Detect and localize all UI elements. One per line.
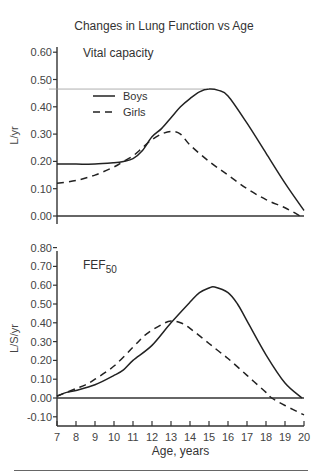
y-tick-label: 0.60 bbox=[31, 46, 52, 58]
x-tick-label: 14 bbox=[184, 431, 196, 443]
y-axis-label: L/S/yr bbox=[8, 324, 20, 353]
x-tick-label: 8 bbox=[73, 431, 79, 443]
y-tick-label: 0.30 bbox=[31, 336, 52, 348]
vital-capacity-panel: 0.000.100.200.300.400.500.60L/yrVital ca… bbox=[8, 46, 304, 224]
y-tick-label: 0.20 bbox=[31, 354, 52, 366]
y-tick-label: 0.00 bbox=[31, 392, 52, 404]
y-axis-label: L/yr bbox=[8, 126, 20, 145]
y-tick-label: 0.10 bbox=[31, 183, 52, 195]
x-tick-label: 12 bbox=[146, 431, 158, 443]
y-tick-label: 0.50 bbox=[31, 298, 52, 310]
series-girls bbox=[57, 321, 304, 415]
x-tick-label: 7 bbox=[54, 431, 60, 443]
x-tick-label: 16 bbox=[222, 431, 234, 443]
y-tick-label: 0.60 bbox=[31, 279, 52, 291]
series-boys bbox=[57, 287, 302, 398]
panel-label: Vital capacity bbox=[83, 46, 153, 60]
x-tick-label: 15 bbox=[203, 431, 215, 443]
series-boys bbox=[57, 89, 304, 210]
y-tick-label: 0.40 bbox=[31, 101, 52, 113]
y-tick-label: 0.80 bbox=[31, 242, 52, 254]
legend-label-boys: Boys bbox=[123, 90, 148, 102]
y-tick-label: -0.10 bbox=[27, 411, 52, 423]
x-tick-label: 13 bbox=[165, 431, 177, 443]
lung-function-chart: 0.000.100.200.300.400.500.60L/yrVital ca… bbox=[0, 0, 328, 476]
y-tick-label: 0.70 bbox=[31, 260, 52, 272]
fef50-panel: -0.100.000.100.200.300.400.500.600.700.8… bbox=[8, 242, 310, 458]
y-tick-label: 0.50 bbox=[31, 74, 52, 86]
y-tick-label: 0.20 bbox=[31, 155, 52, 167]
x-tick-label: 18 bbox=[260, 431, 272, 443]
legend-label-girls: Girls bbox=[123, 106, 146, 118]
x-tick-label: 19 bbox=[279, 431, 291, 443]
y-tick-label: 0.30 bbox=[31, 128, 52, 140]
x-tick-label: 11 bbox=[127, 431, 138, 443]
series-girls bbox=[57, 131, 300, 216]
x-tick-label: 17 bbox=[241, 431, 253, 443]
x-tick-label: 20 bbox=[298, 431, 310, 443]
panel-label: FEF50 bbox=[83, 258, 117, 275]
x-tick-label: 10 bbox=[108, 431, 120, 443]
x-tick-label: 9 bbox=[92, 431, 98, 443]
y-tick-label: 0.00 bbox=[31, 210, 52, 222]
x-axis-label: Age, years bbox=[152, 444, 209, 458]
y-tick-label: 0.40 bbox=[31, 317, 52, 329]
y-tick-label: 0.10 bbox=[31, 373, 52, 385]
bottom-divider bbox=[14, 470, 308, 471]
